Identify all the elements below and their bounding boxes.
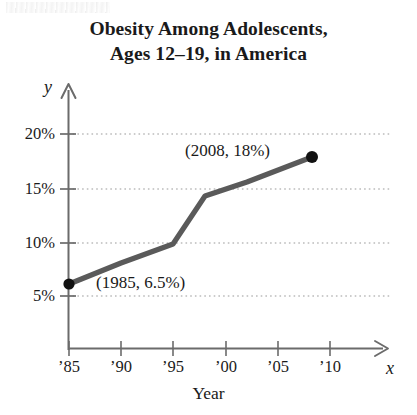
x-tick-label-1995: ’95 xyxy=(143,359,203,376)
data-point-1985 xyxy=(63,278,74,289)
annotation-1985: (1985, 6.5%) xyxy=(96,274,185,291)
x-tick-label-2010: ’10 xyxy=(300,359,360,376)
chart-plot-area xyxy=(0,0,417,415)
y-axis-variable-label: y xyxy=(44,77,52,98)
x-axis xyxy=(68,341,388,356)
y-tick-label-10: 10% xyxy=(0,235,55,252)
x-tick-label-1985: ’85 xyxy=(39,359,99,376)
x-tick-label-2005: ’05 xyxy=(248,359,308,376)
data-line-obesity-rate xyxy=(69,157,312,284)
y-tick-label-5: 5% xyxy=(0,288,55,305)
y-axis xyxy=(60,84,76,350)
data-point-2008 xyxy=(306,151,318,163)
y-tick-label-20: 20% xyxy=(0,126,55,143)
chart-page: Obesity Among Adolescents, Ages 12–19, i… xyxy=(0,0,417,415)
x-axis-variable-label: x xyxy=(386,358,394,379)
annotation-2008: (2008, 18%) xyxy=(185,142,270,159)
y-tick-label-15: 15% xyxy=(0,181,55,198)
x-tick-label-1990: ’90 xyxy=(91,359,151,376)
x-tick-label-2000: ’00 xyxy=(196,359,256,376)
x-axis-title: Year xyxy=(0,383,417,404)
